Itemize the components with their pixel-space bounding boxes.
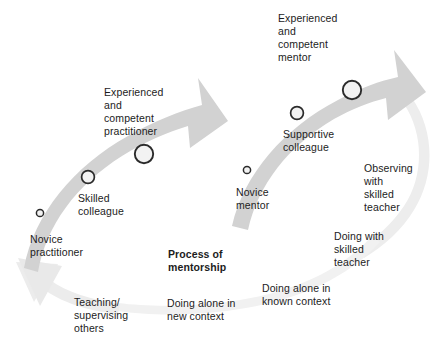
label-skilled-colleague: Skilled colleague [78,192,124,218]
label-doing-alone-known-context: Doing alone in known context [262,282,331,308]
label-experienced-competent-practitioner: Experienced and competent practitioner [104,86,163,138]
mentorship-process-diagram: Novice practitioner Skilled colleague Ex… [0,0,433,361]
label-doing-with-skilled-teacher: Doing with skilled teacher [334,230,384,269]
label-doing-alone-new-context: Doing alone in new context [167,297,236,323]
label-teaching-supervising-others: Teaching/ supervising others [74,296,128,335]
marker-novice-mentor [243,166,250,173]
label-novice-mentor: Novice mentor [236,186,269,212]
label-supportive-colleague: Supportive colleague [283,128,334,154]
diagram-title: Process of mentorship [168,248,226,274]
marker-experienced-mentor [343,81,361,99]
label-novice-practitioner: Novice practitioner [30,233,83,259]
marker-skilled-colleague [82,171,95,184]
label-observing-with-skilled-teacher: Observing with skilled teacher [364,162,413,214]
label-experienced-competent-mentor: Experienced and competent mentor [278,12,337,64]
marker-experienced-practitioner [135,145,153,163]
marker-novice-practitioner [36,209,43,216]
marker-supportive-colleague [291,107,304,120]
